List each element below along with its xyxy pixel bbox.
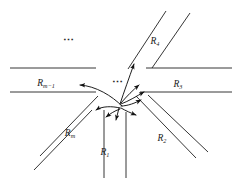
label-r2: R2 bbox=[157, 133, 167, 144]
ellipsis-upper-left: ⋯ bbox=[63, 34, 75, 46]
boundary-r4-left bbox=[128, 11, 166, 69]
boundary-rm-lower bbox=[34, 110, 92, 170]
label-r3: R3 bbox=[173, 79, 183, 90]
boundary-r2-lower bbox=[148, 95, 208, 152]
flow-arrow-to-r3 bbox=[121, 92, 144, 104]
boundary-rm-upper bbox=[40, 96, 98, 156]
figure-canvas: R1 R2 R3 R4 Rm−1 Rm ⋯ ⋯ bbox=[0, 0, 240, 184]
label-rm-minus-1: Rm−1 bbox=[36, 78, 55, 89]
boundary-r2-upper bbox=[136, 96, 196, 158]
region-label-group: R1 R2 R3 R4 Rm−1 Rm bbox=[36, 36, 182, 158]
ellipsis-group: ⋯ ⋯ bbox=[63, 34, 124, 88]
label-r4: R4 bbox=[150, 36, 160, 47]
region-decomposition-diagram: R1 R2 R3 R4 Rm−1 Rm ⋯ ⋯ bbox=[0, 0, 240, 184]
region-boundaries bbox=[10, 11, 232, 178]
label-r1: R1 bbox=[100, 147, 110, 158]
flow-arrow-to-rm1 bbox=[80, 85, 122, 106]
label-rm: Rm bbox=[64, 128, 76, 139]
flow-arrow-to-rm bbox=[96, 107, 120, 110]
ellipsis-center: ⋯ bbox=[112, 76, 124, 88]
flow-arrow-to-r2 bbox=[121, 108, 136, 115]
